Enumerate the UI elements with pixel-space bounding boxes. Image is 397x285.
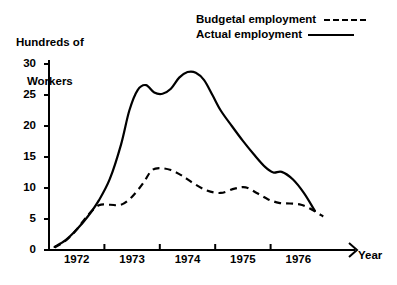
y-axis-tick-label: 5: [12, 212, 36, 224]
x-axis-tick-label: 1973: [103, 253, 161, 265]
x-axis-tick-label: 1976: [269, 253, 327, 265]
x-axis-tick-label: 1975: [214, 253, 272, 265]
y-axis-tick-label: 30: [12, 57, 36, 69]
y-axis-tick-label: 20: [12, 119, 36, 131]
y-axis-tick-label: 10: [12, 181, 36, 193]
axes: [49, 60, 357, 257]
x-axis-tick-label: 1972: [48, 253, 106, 265]
y-axis-tick-label: 15: [12, 150, 36, 162]
plot-area: [0, 0, 397, 285]
y-axis-tick-label: 25: [12, 88, 36, 100]
employment-line-chart: Hundreds of Workers Year Budgetal employ…: [0, 0, 397, 285]
x-axis-tick-label: 1974: [159, 253, 217, 265]
y-axis-tick-label: 0: [12, 243, 36, 255]
series-line-actual-employment: [55, 72, 315, 247]
